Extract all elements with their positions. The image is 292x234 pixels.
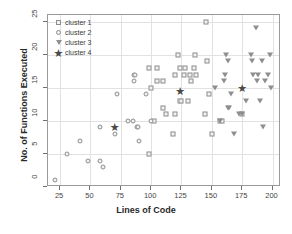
x-tick xyxy=(211,186,212,190)
x-tick-label: 175 xyxy=(226,191,256,200)
data-point-triangle xyxy=(225,59,231,64)
data-point-square xyxy=(173,72,178,77)
x-tick-label: 125 xyxy=(165,191,195,200)
data-point-triangle xyxy=(267,52,273,57)
data-point-square xyxy=(161,105,166,110)
x-tick-label: 50 xyxy=(74,191,104,200)
data-point-square xyxy=(149,85,154,90)
data-point-square xyxy=(155,79,160,84)
x-tick xyxy=(150,186,151,190)
gridline-vertical xyxy=(273,15,274,185)
data-point-square xyxy=(207,92,212,97)
data-point-square xyxy=(192,52,197,57)
data-point-circle xyxy=(98,125,103,130)
legend-item-4[interactable]: ★cluster 4 xyxy=(54,48,116,57)
data-point-square xyxy=(209,132,214,137)
legend-item-2[interactable]: cluster 2 xyxy=(54,28,116,37)
data-point-triangle xyxy=(221,79,227,84)
data-point-star: ★ xyxy=(110,124,120,130)
data-point-circle xyxy=(100,165,105,170)
data-point-square xyxy=(179,99,184,104)
x-tick-label: 150 xyxy=(196,191,226,200)
data-point-circle xyxy=(98,158,103,163)
y-tick-label: 25 xyxy=(30,9,39,23)
data-point-star: ★ xyxy=(175,88,185,94)
legend-item-1[interactable]: cluster 1 xyxy=(54,18,116,27)
data-point-square xyxy=(173,112,178,117)
gridline-vertical xyxy=(151,15,152,185)
data-point-triangle xyxy=(255,72,261,77)
x-tick xyxy=(59,186,60,190)
data-point-circle xyxy=(132,79,137,84)
data-point-square xyxy=(181,72,186,77)
data-point-square xyxy=(187,72,192,77)
data-point-square xyxy=(146,65,151,70)
y-tick xyxy=(43,186,47,187)
chart-legend: cluster 1cluster 2cluster 3★cluster 4 xyxy=(54,18,116,58)
data-point-star: ★ xyxy=(237,85,247,91)
square-icon xyxy=(54,20,63,25)
data-point-square xyxy=(183,65,188,70)
gridline-vertical xyxy=(121,15,122,185)
data-point-triangle xyxy=(259,59,265,64)
data-point-circle xyxy=(137,138,142,143)
y-tick-label: 20 xyxy=(30,42,39,56)
data-point-square xyxy=(191,65,196,70)
data-point-square xyxy=(194,72,199,77)
y-tick xyxy=(43,153,47,154)
legend-label: cluster 2 xyxy=(65,29,91,36)
data-point-square xyxy=(175,52,180,57)
legend-label: cluster 4 xyxy=(65,49,91,56)
x-tick xyxy=(241,186,242,190)
legend-item-3[interactable]: cluster 3 xyxy=(54,38,116,47)
data-point-square xyxy=(146,151,151,156)
data-point-circle xyxy=(77,138,82,143)
legend-label: cluster 3 xyxy=(65,39,91,46)
y-tick-label: 0 xyxy=(30,175,39,189)
y-axis-label: No. of Functions Executed xyxy=(19,35,29,175)
star-icon: ★ xyxy=(54,50,63,56)
data-point-triangle xyxy=(231,132,237,137)
gridline-horizontal xyxy=(48,154,279,155)
data-point-triangle xyxy=(239,112,245,117)
data-point-circle xyxy=(65,151,70,156)
data-point-triangle xyxy=(248,52,254,57)
data-point-square xyxy=(202,112,207,117)
data-point-triangle xyxy=(254,79,260,84)
legend-label: cluster 1 xyxy=(65,19,91,26)
y-tick-label: 15 xyxy=(30,75,39,89)
data-point-triangle xyxy=(212,85,218,90)
data-point-square xyxy=(203,19,208,24)
data-point-square xyxy=(170,132,175,137)
y-tick xyxy=(43,54,47,55)
circle-icon xyxy=(54,30,63,35)
y-tick xyxy=(43,87,47,88)
data-point-square xyxy=(161,79,166,84)
x-tick-label: 25 xyxy=(44,191,74,200)
data-point-triangle xyxy=(243,99,249,104)
data-point-circle xyxy=(135,125,140,130)
x-tick-label: 200 xyxy=(257,191,287,200)
scatter-chart: ★★★ 2550751001251501752000510152025 Line… xyxy=(0,0,292,234)
data-point-circle xyxy=(115,92,120,97)
y-tick-label: 5 xyxy=(30,141,39,155)
data-point-triangle xyxy=(268,85,274,90)
data-point-triangle xyxy=(260,125,266,130)
data-point-triangle xyxy=(249,59,255,64)
data-point-triangle xyxy=(217,118,223,123)
data-point-circle xyxy=(133,72,138,77)
data-point-triangle xyxy=(257,99,263,104)
data-point-square xyxy=(155,65,160,70)
x-tick xyxy=(180,186,181,190)
x-tick xyxy=(272,186,273,190)
data-point-circle xyxy=(53,178,58,183)
x-tick xyxy=(89,186,90,190)
gridline-horizontal xyxy=(48,121,279,122)
data-point-square xyxy=(185,99,190,104)
y-tick xyxy=(43,120,47,121)
x-tick-label: 75 xyxy=(105,191,135,200)
data-point-circle xyxy=(149,118,154,123)
data-point-square xyxy=(204,59,209,64)
data-point-circle xyxy=(130,118,135,123)
data-point-square xyxy=(163,112,168,117)
